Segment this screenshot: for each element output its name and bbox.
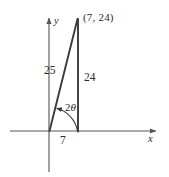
horizontal-leg-length-label: 7 <box>60 135 66 147</box>
vertical-leg-length-label: 24 <box>84 72 96 84</box>
apex-point-label: (7, 24) <box>83 12 114 23</box>
x-axis-label: x <box>148 134 153 145</box>
triangle-diagram: (7, 24) 25 24 7 2θ y x <box>0 0 169 177</box>
y-axis-label: y <box>54 16 59 27</box>
theta-symbol: θ <box>71 101 76 113</box>
diagram-canvas <box>0 0 169 177</box>
angle-label: 2θ <box>65 102 76 113</box>
hypotenuse-length-label: 25 <box>44 65 56 77</box>
